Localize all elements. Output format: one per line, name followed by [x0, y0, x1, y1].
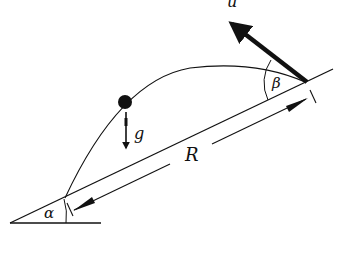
- range-tick-right: [310, 90, 316, 103]
- beta-arc: [264, 60, 271, 100]
- velocity-label: u: [227, 0, 237, 11]
- projectile-incline-diagram: α g u β R: [0, 0, 349, 255]
- alpha-arc: [64, 199, 66, 223]
- projectile-ball: [118, 95, 132, 109]
- beta-label: β: [271, 74, 281, 92]
- gravity-label: g: [134, 124, 144, 143]
- range-arrowhead-right: [286, 98, 308, 112]
- range-tick-left: [67, 203, 73, 216]
- alpha-label: α: [44, 204, 54, 222]
- range-label: R: [184, 144, 199, 165]
- incline-line: [10, 69, 333, 223]
- velocity-arrow: [232, 24, 307, 82]
- trajectory-curve: [65, 66, 305, 198]
- range-arrowhead-left: [73, 197, 95, 211]
